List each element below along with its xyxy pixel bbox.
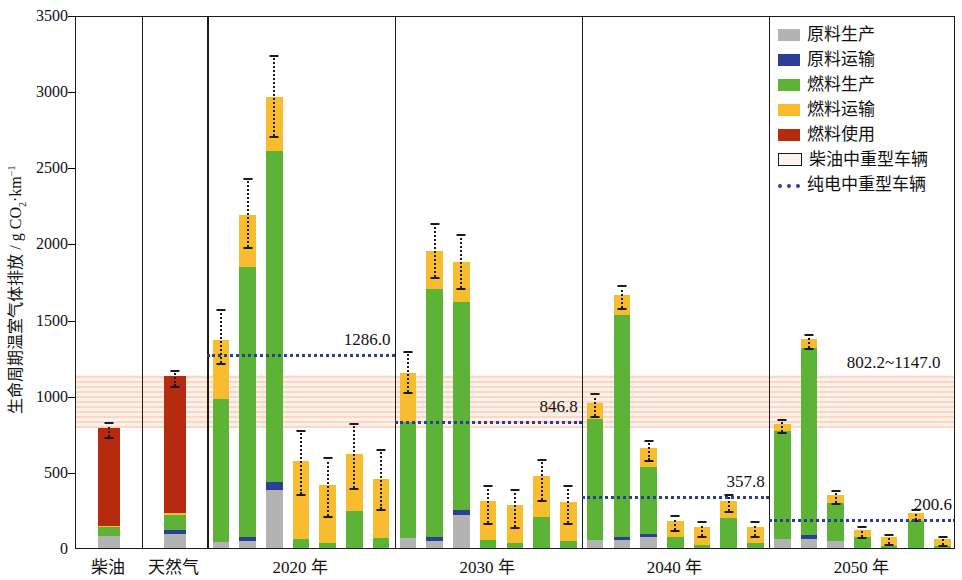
- bar[interactable]: [213, 340, 230, 548]
- error-bar-cap: [698, 536, 707, 538]
- bar-segment-fuelp: [319, 543, 336, 548]
- reference-line-label: 1286.0: [344, 330, 391, 350]
- error-bar-cap: [885, 534, 894, 536]
- error-bar-cap: [243, 178, 252, 180]
- error-bar-cap: [243, 247, 252, 249]
- error-bar-cap: [591, 393, 600, 395]
- error-bar-cap: [403, 392, 412, 394]
- bar-segment-fuelp: [720, 518, 737, 548]
- error-bar-cap: [804, 348, 813, 350]
- y-tick-mark: [68, 321, 75, 322]
- error-bar-cap: [537, 500, 546, 502]
- bar[interactable]: [614, 295, 631, 548]
- bar-segment-fuelp: [400, 422, 417, 538]
- bar-segment-fuelp: [164, 515, 186, 529]
- bar[interactable]: [587, 403, 604, 548]
- y-tick-label: 2000: [22, 236, 68, 252]
- legend-item[interactable]: 原料运输: [778, 47, 956, 72]
- error-bar-cap: [644, 440, 653, 442]
- reference-line-label: 200.6: [914, 495, 952, 515]
- legend-item[interactable]: 燃料生产: [778, 72, 956, 97]
- bar[interactable]: [400, 373, 417, 548]
- bar[interactable]: [266, 96, 283, 548]
- bar-segment-feedt: [801, 535, 818, 539]
- x-axis-group-label: 2050 年: [834, 553, 889, 578]
- bar-segment-feedt: [614, 537, 631, 541]
- bar-segment-feedt: [453, 510, 470, 515]
- error-bar-cap: [484, 523, 493, 525]
- error-bar-cap: [831, 490, 840, 492]
- bar[interactable]: [426, 251, 443, 548]
- bar[interactable]: [98, 428, 120, 548]
- legend-item[interactable]: 原料生产: [778, 22, 956, 47]
- bar-segment-feed: [453, 515, 470, 548]
- legend-swatch-icon: [778, 29, 800, 41]
- error-bar: [353, 423, 355, 488]
- error-bar-cap: [564, 523, 573, 525]
- bar-segment-fuelt: [164, 513, 186, 515]
- legend-item[interactable]: 燃料使用: [778, 122, 956, 147]
- bar-segment-fuelp: [614, 315, 631, 537]
- error-bar: [514, 489, 516, 527]
- legend-swatch-icon: [778, 129, 800, 141]
- bar[interactable]: [453, 262, 470, 548]
- legend-swatch-icon: [778, 79, 800, 91]
- reference-line-label: 846.8: [539, 397, 577, 417]
- bar-segment-fuelp: [747, 543, 764, 548]
- reference-line: [769, 519, 955, 522]
- error-bar-cap: [671, 530, 680, 532]
- reference-line-label: 357.8: [727, 472, 765, 492]
- error-bar-cap: [617, 285, 626, 287]
- error-bar-cap: [430, 223, 439, 225]
- legend-item[interactable]: 燃料运输: [778, 97, 956, 122]
- bar-segment-fuelp: [667, 537, 684, 548]
- error-bar-cap: [104, 422, 113, 424]
- y-tick-label: 3500: [22, 8, 68, 24]
- bar[interactable]: [774, 424, 791, 548]
- bar-segment-fuelp: [774, 431, 791, 539]
- x-axis-group-label: 天然气: [148, 553, 199, 578]
- error-bar-cap: [644, 460, 653, 462]
- error-bar-cap: [617, 308, 626, 310]
- error-bar: [541, 459, 543, 500]
- error-bar-cap: [270, 136, 279, 138]
- error-bar-cap: [457, 234, 466, 236]
- legend-swatch-icon: [778, 104, 800, 116]
- bar-segment-fuelp: [801, 348, 818, 535]
- x-axis-group-label: 2040 年: [647, 553, 702, 578]
- reference-line: [582, 496, 769, 499]
- error-bar-cap: [104, 437, 113, 439]
- bar-segment-feedt: [164, 530, 186, 534]
- bar[interactable]: [239, 215, 256, 549]
- legend-label: 原料生产: [807, 26, 875, 43]
- group-separator: [142, 17, 144, 548]
- reference-line: [207, 354, 394, 357]
- error-bar: [407, 351, 409, 392]
- error-bar-cap: [350, 488, 359, 490]
- error-bar-cap: [751, 521, 760, 523]
- y-tick-label: 1000: [22, 389, 68, 405]
- x-axis-group-label: 2020 年: [272, 553, 327, 578]
- bar-segment-fuelp: [480, 540, 497, 548]
- y-tick-label: 500: [22, 465, 68, 481]
- legend-item[interactable]: 纯电中重型车辆: [778, 172, 956, 197]
- error-bar-cap: [671, 515, 680, 517]
- reference-line: [395, 421, 582, 424]
- error-bar-cap: [591, 416, 600, 418]
- bar-segment-feed: [587, 540, 604, 548]
- legend-label: 原料运输: [807, 51, 875, 68]
- legend-item[interactable]: 柴油中重型车辆: [778, 147, 956, 172]
- bar-segment-feed: [239, 541, 256, 548]
- group-separator: [207, 17, 209, 548]
- bar-segment-fuelp: [426, 289, 443, 537]
- bar-segment-feed: [400, 538, 417, 548]
- error-bar: [247, 178, 249, 247]
- bar-segment-fuelp: [908, 521, 925, 548]
- bar[interactable]: [164, 376, 186, 548]
- legend-label: 燃料使用: [807, 126, 875, 143]
- bar[interactable]: [801, 339, 818, 548]
- group-separator: [395, 17, 397, 548]
- y-tick-mark: [68, 92, 75, 93]
- legend-swatch-icon: [778, 54, 800, 66]
- x-axis-group-label: 柴油: [91, 553, 125, 578]
